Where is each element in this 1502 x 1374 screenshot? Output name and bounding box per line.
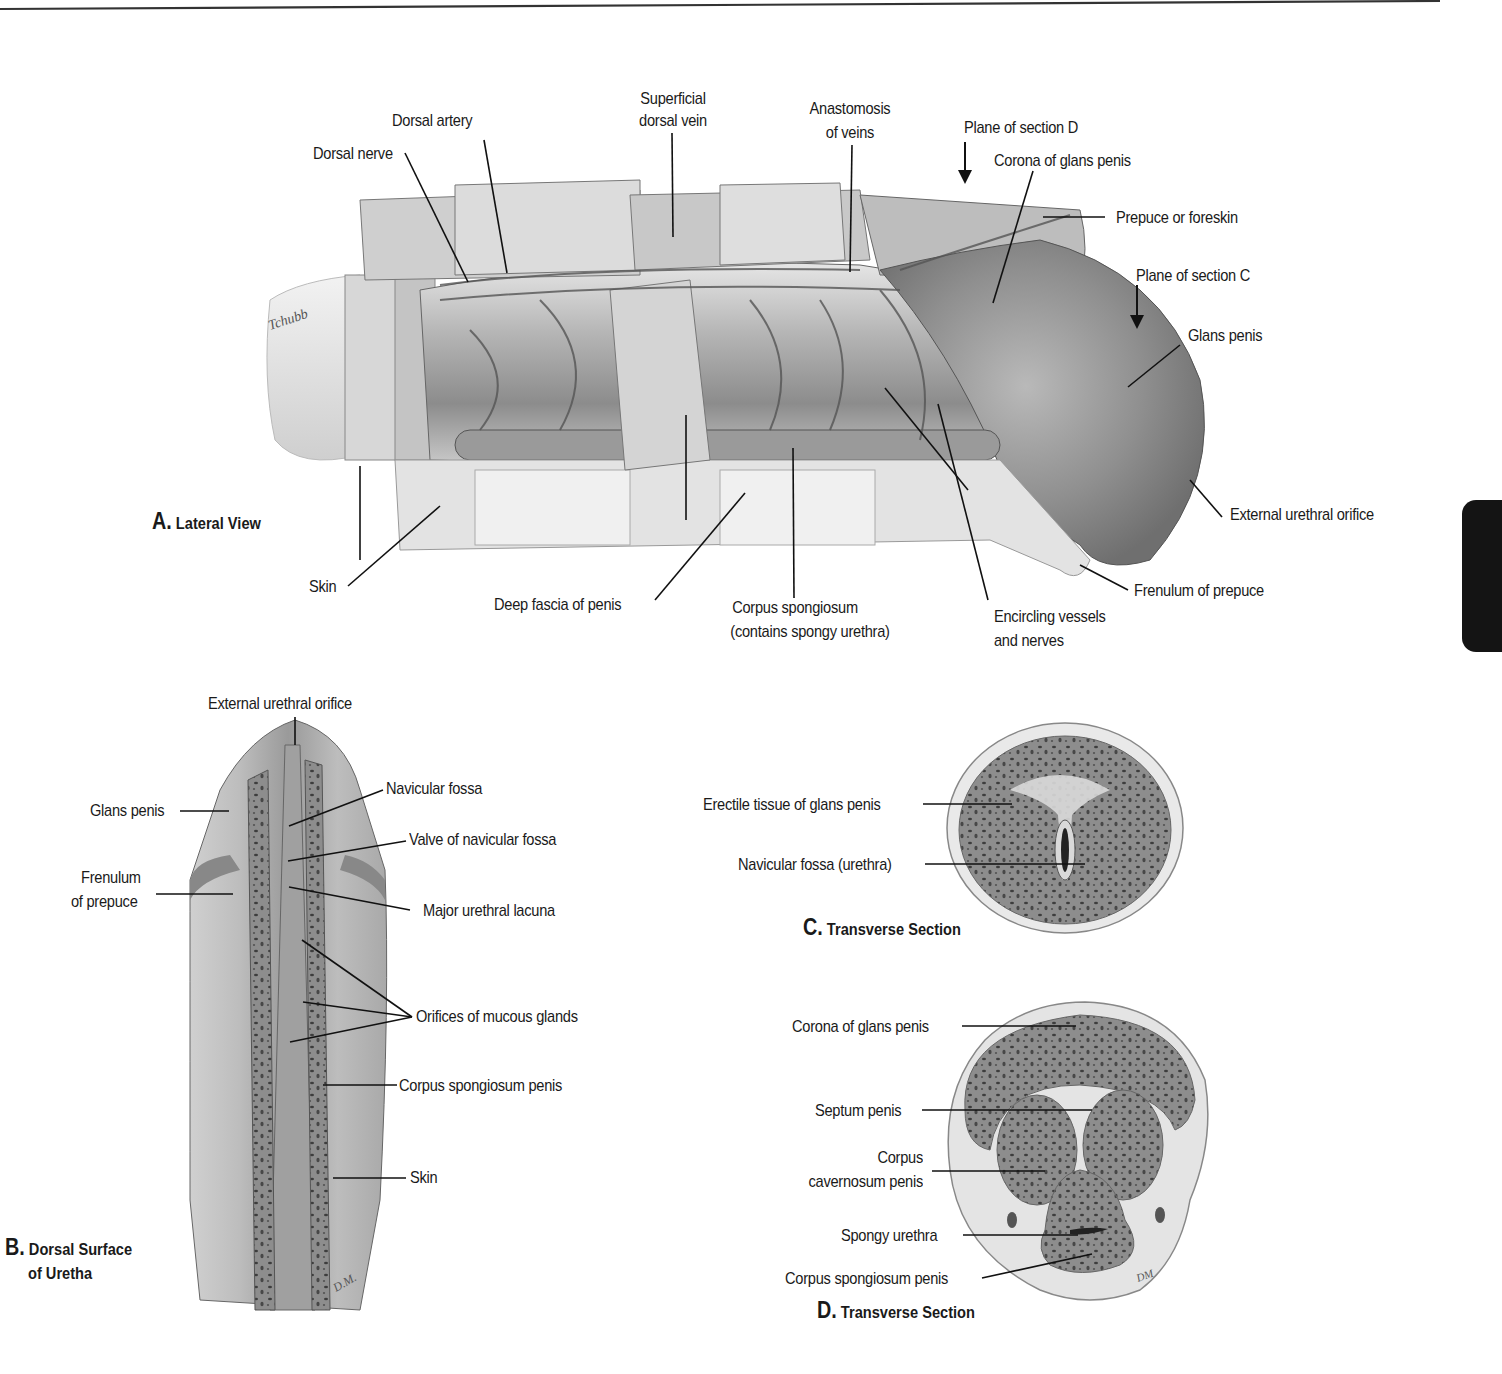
label-anastomosis-line2: of veins [798, 122, 901, 143]
label-frenulum-of-prepuce: Frenulum of prepuce [1134, 580, 1264, 601]
label-d-corpus-cavernosum-line2: cavernosum penis [791, 1171, 923, 1192]
panel-a-letter: A. [152, 508, 172, 534]
label-dorsal-nerve: Dorsal nerve [313, 143, 393, 164]
label-d-septum-penis: Septum penis [815, 1100, 901, 1121]
label-b-valve-navicular-fossa: Valve of navicular fossa [409, 829, 556, 850]
label-b-skin: Skin [410, 1167, 437, 1188]
label-superficial-dorsal-vein-line1: Superficial [621, 88, 724, 109]
label-b-navicular-fossa: Navicular fossa [386, 778, 482, 799]
label-anastomosis-line1: Anastomosis [798, 98, 901, 119]
transverse-section-c-art [947, 723, 1183, 933]
label-corona-glans: Corona of glans penis [994, 150, 1131, 171]
panel-b-letter: B. [5, 1234, 25, 1260]
label-deep-fascia: Deep fascia of penis [494, 594, 621, 615]
label-c-navicular-fossa-urethra: Navicular fossa (urethra) [738, 854, 892, 875]
label-b-orifices-mucous-glands: Orifices of mucous glands [416, 1006, 578, 1027]
panel-d-letter: D. [817, 1297, 837, 1323]
panel-b-title-line2: of Uretha [28, 1263, 92, 1284]
label-b-corpus-spongiosum-penis: Corpus spongiosum penis [399, 1075, 562, 1096]
transverse-section-d-art: DM [948, 1002, 1208, 1300]
label-prepuce: Prepuce or foreskin [1116, 207, 1238, 228]
panel-a-title-text: Lateral View [176, 514, 261, 533]
label-encircling-line2: and nerves [994, 630, 1064, 651]
label-b-frenulum-line2: of prepuce [71, 891, 138, 912]
panel-c-title: C. Transverse Section [803, 917, 961, 940]
panel-a-title: A. Lateral View [152, 511, 261, 534]
label-d-spongy-urethra: Spongy urethra [841, 1225, 937, 1246]
label-b-major-urethral-lacuna: Major urethral lacuna [423, 900, 555, 921]
panel-c-title-text: Transverse Section [827, 920, 961, 939]
label-d-corpus-spongiosum-penis: Corpus spongiosum penis [785, 1268, 948, 1289]
panel-d-title-text: Transverse Section [841, 1303, 975, 1322]
label-skin-a: Skin [309, 576, 336, 597]
panel-d-title: D. Transverse Section [817, 1300, 975, 1323]
label-plane-of-section-c: Plane of section C [1136, 265, 1250, 286]
label-corpus-spongiosum-line1: Corpus spongiosum [713, 597, 876, 618]
panel-c-letter: C. [803, 914, 823, 940]
lateral-view-art: Tchubb [266, 180, 1204, 576]
panel-b-title-line1: Dorsal Surface [29, 1240, 132, 1259]
label-b-glans-penis: Glans penis [90, 800, 164, 821]
label-external-urethral-orifice: External urethral orifice [1230, 504, 1374, 525]
dorsal-surface-art: D.M. [190, 720, 387, 1310]
label-corpus-spongiosum-line2: (contains spongy urethra) [715, 621, 904, 642]
label-plane-of-section-d: Plane of section D [964, 117, 1078, 138]
label-superficial-dorsal-vein-line2: dorsal vein [621, 110, 724, 131]
label-dorsal-artery: Dorsal artery [392, 110, 472, 131]
label-d-corpus-cavernosum-line1: Corpus [791, 1147, 923, 1168]
label-d-corona: Corona of glans penis [792, 1016, 929, 1037]
label-glans-penis: Glans penis [1188, 325, 1262, 346]
label-c-erectile-tissue: Erectile tissue of glans penis [703, 794, 881, 815]
panel-b-title: B. Dorsal Surface [5, 1237, 132, 1260]
label-b-frenulum-line1: Frenulum [81, 867, 141, 888]
label-encircling-line1: Encircling vessels [994, 606, 1106, 627]
label-b-external-urethral-orifice: External urethral orifice [208, 693, 352, 714]
